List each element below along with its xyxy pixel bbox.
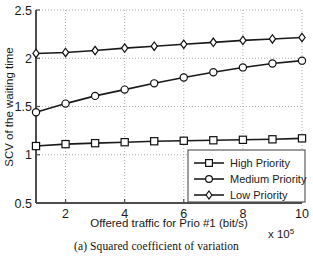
data-point-marker-square [239, 136, 246, 143]
y-axis-tick-labels: 0.511.522.5 [15, 4, 32, 211]
data-point-marker-circle [206, 176, 213, 183]
figure-caption: (a) Squared coefficient of variation [0, 240, 313, 252]
x-tick-label: 2 [62, 207, 69, 221]
data-point-marker-circle [121, 86, 128, 93]
data-point-marker-circle [151, 80, 158, 87]
legend-label: Medium Priority [230, 173, 307, 185]
x-axis-title: Offered traffic for Prio #1 (bit/s) [90, 217, 248, 229]
data-point-marker-square [121, 139, 128, 146]
data-point-marker-circle [62, 100, 69, 107]
data-point-marker-square [151, 138, 158, 145]
data-point-marker-square [180, 137, 187, 144]
data-point-marker-circle [269, 60, 276, 67]
chart-legend[interactable]: High PriorityMedium PriorityLow Priority [188, 150, 307, 202]
data-point-marker-circle [32, 109, 39, 116]
data-point-marker-square [269, 136, 276, 143]
y-tick-label: 2 [25, 52, 32, 66]
y-tick-label: 1.5 [15, 100, 32, 114]
data-point-marker-circle [92, 92, 99, 99]
y-tick-label: 1 [25, 148, 32, 162]
data-point-marker-circle [180, 74, 187, 81]
data-point-marker-circle [210, 69, 217, 76]
x-axis-exponent: x 105 [268, 227, 295, 240]
x-axis-exponent-base: x 10 [268, 228, 290, 240]
data-point-marker-circle [239, 64, 246, 71]
legend-label: Low Priority [230, 189, 288, 201]
data-point-marker-square [210, 137, 217, 144]
y-tick-label: 2.5 [15, 4, 32, 18]
x-axis-exponent-power: 5 [290, 227, 295, 236]
x-tick-label: 10 [295, 207, 309, 221]
scv-line-chart: 246810 0.511.522.5 Offered traffic for P… [0, 0, 313, 263]
data-point-marker-circle [298, 57, 305, 64]
data-point-marker-square [62, 141, 69, 148]
data-point-marker-square [92, 140, 99, 147]
legend-label: High Priority [230, 157, 290, 169]
data-point-marker-square [206, 160, 213, 167]
y-tick-label: 0.5 [15, 197, 32, 211]
data-point-marker-square [298, 135, 305, 142]
figure-container: 246810 0.511.522.5 Offered traffic for P… [0, 0, 313, 263]
y-axis-title: SCV of the waiting time [3, 47, 15, 167]
data-point-marker-square [32, 142, 39, 149]
